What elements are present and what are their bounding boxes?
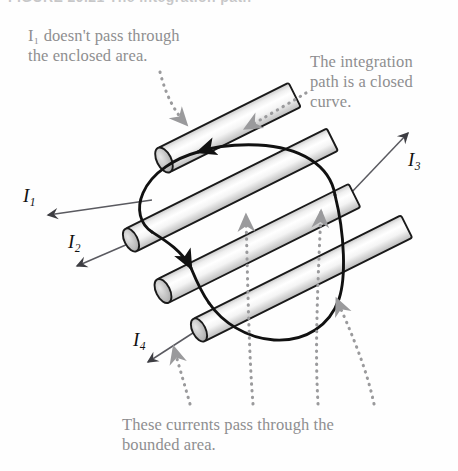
- current-label-I4-base: I: [133, 329, 139, 350]
- current-label-I2-sub: 2: [75, 242, 81, 254]
- annotation-bottom: These currents pass through the bounded …: [122, 415, 412, 455]
- current-label-I2: I2: [68, 232, 80, 251]
- current-arrow-I1: [48, 200, 152, 215]
- leader-bottom-to-wire3: [317, 212, 321, 404]
- wire-1: [48, 83, 301, 215]
- annotation-left: I₁ doesn't pass through the enclosed are…: [28, 26, 258, 66]
- current-arrow-I2: [77, 244, 128, 266]
- leader-bottom-to-wire4: [337, 300, 374, 404]
- closed-curve-notch: [152, 232, 191, 268]
- current-label-I1-sub: 1: [30, 196, 36, 208]
- current-arrow-I4: [148, 331, 196, 362]
- ampere-law-figure: FIGURE 29.21 The integration path: [0, 0, 458, 471]
- current-label-I3: I3: [408, 150, 420, 169]
- current-label-I4: I4: [133, 330, 145, 349]
- leader-left-to-wire1: [160, 72, 186, 124]
- current-label-I1: I1: [23, 186, 35, 205]
- annotation-right: The integration path is a closed curve.: [310, 52, 450, 112]
- current-label-I2-base: I: [68, 231, 74, 252]
- current-label-I3-base: I: [408, 149, 414, 170]
- leader-bottom-to-wire4-left: [174, 348, 190, 404]
- current-label-I1-base: I: [23, 185, 29, 206]
- current-label-I4-sub: 4: [140, 340, 146, 352]
- current-label-I3-sub: 3: [415, 160, 421, 172]
